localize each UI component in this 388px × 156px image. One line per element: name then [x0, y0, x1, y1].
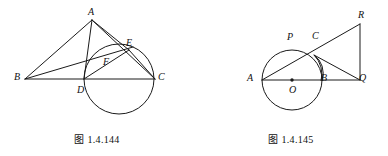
vertex-label-C: C — [312, 31, 319, 41]
vertex-label-R: R — [358, 10, 364, 20]
figure-145-caption: 图 1.4.145 — [194, 131, 388, 146]
vertex-label-A: A — [88, 7, 94, 17]
vertex-label-B: B — [321, 73, 327, 83]
vertex-label-A: A — [247, 73, 253, 83]
segment-BE — [25, 47, 133, 79]
segment-AB — [25, 20, 92, 79]
vertex-label-E: E — [126, 38, 132, 48]
vertex-label-C: C — [158, 72, 165, 82]
figure-144-drawing — [0, 0, 194, 128]
vertex-label-P: P — [287, 32, 293, 42]
vertex-label-D: D — [77, 85, 84, 95]
vertex-label-O: O — [289, 85, 296, 95]
figure-sheet: A B C D E F 图 1.4.144 A O B P C R Q — [0, 0, 388, 156]
segment-AD — [84, 20, 92, 79]
figure-144-panel: A B C D E F 图 1.4.144 — [0, 0, 194, 156]
center-point-O-dot — [290, 78, 293, 81]
vertex-label-B: B — [14, 72, 20, 82]
vertex-label-Q: Q — [359, 73, 366, 83]
vertex-label-F: F — [103, 57, 109, 67]
figure-145-panel: A O B P C R Q 图 1.4.145 — [194, 0, 388, 156]
figure-144-caption: 图 1.4.144 — [0, 131, 194, 146]
